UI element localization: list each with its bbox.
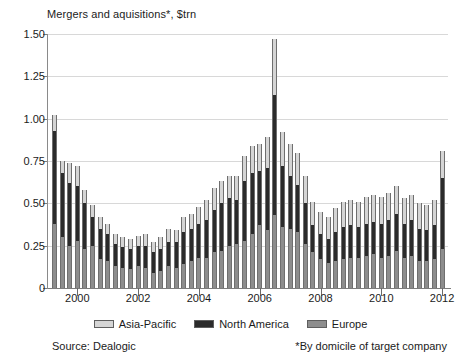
bar-segment-asia-pacific <box>220 181 223 203</box>
bar-segment-north-america <box>114 244 117 266</box>
bar-segment-asia-pacific <box>159 237 162 249</box>
bar <box>158 237 163 288</box>
bar-segment-europe <box>83 249 86 288</box>
bar-segment-europe <box>106 261 109 288</box>
y-axis-ticks: 00.250.500.751.001.251.50 <box>0 0 45 363</box>
bar-segment-europe <box>137 266 140 288</box>
bar <box>120 237 125 288</box>
bar <box>265 137 270 288</box>
bar <box>303 176 308 288</box>
bar-segment-north-america <box>319 234 322 259</box>
bar <box>364 197 369 288</box>
bar-segment-europe <box>387 256 390 288</box>
x-tick-label: 2010 <box>369 292 393 304</box>
bar-segment-europe <box>159 271 162 288</box>
bar-segment-asia-pacific <box>243 156 246 181</box>
bar-segment-asia-pacific <box>76 166 79 186</box>
bar <box>348 200 353 288</box>
bar-segment-north-america <box>137 246 140 266</box>
plot-area <box>48 34 448 288</box>
bar-segment-north-america <box>281 166 284 227</box>
bar-segment-north-america <box>387 220 390 256</box>
bar-segment-asia-pacific <box>433 200 436 225</box>
bar-segment-europe <box>53 224 56 288</box>
bar-segment-europe <box>258 225 261 288</box>
bar <box>136 236 141 288</box>
bar-segment-north-america <box>99 229 102 259</box>
bar-segment-north-america <box>175 242 178 267</box>
legend-item: North America <box>194 318 289 330</box>
bar-segment-europe <box>380 258 383 288</box>
legend-swatch <box>94 320 114 328</box>
bar-segment-asia-pacific <box>258 144 261 171</box>
bar <box>98 217 103 288</box>
bar-segment-north-america <box>190 229 193 261</box>
bar-segment-europe <box>61 237 64 288</box>
bar <box>189 214 194 289</box>
bar <box>242 156 247 288</box>
legend-label: Asia-Pacific <box>119 318 176 330</box>
bar-segment-north-america <box>441 178 444 249</box>
bar <box>234 176 239 288</box>
bar-segment-asia-pacific <box>61 161 64 173</box>
bar-segment-asia-pacific <box>273 39 276 95</box>
bar <box>295 153 300 288</box>
chart-title: Mergers and aquisitions*, $trn <box>47 8 196 20</box>
bar <box>326 217 331 288</box>
bar-segment-asia-pacific <box>129 239 132 249</box>
bar-segment-europe <box>190 261 193 288</box>
bar-segment-asia-pacific <box>266 137 269 167</box>
bar-segment-asia-pacific <box>387 193 390 220</box>
bar-segment-europe <box>99 259 102 288</box>
bar-segment-north-america <box>258 171 261 225</box>
bar-segment-europe <box>266 230 269 288</box>
bar <box>318 212 323 288</box>
bar <box>341 202 346 288</box>
bar-segment-north-america <box>182 232 185 264</box>
bar-segment-europe <box>304 244 307 288</box>
bar-segment-north-america <box>159 249 162 271</box>
bar-segment-north-america <box>304 203 307 244</box>
bar <box>181 217 186 288</box>
x-tick-label: 2006 <box>247 292 271 304</box>
bar <box>151 242 156 288</box>
bar-segment-asia-pacific <box>83 190 86 204</box>
bar-segment-europe <box>372 254 375 288</box>
bar-segment-europe <box>365 256 368 288</box>
x-tick-label: 2000 <box>65 292 89 304</box>
bar-segment-north-america <box>83 203 86 249</box>
bar <box>113 234 118 288</box>
bar-segment-asia-pacific <box>319 212 322 234</box>
bar-segment-north-america <box>311 225 314 252</box>
bar-segment-asia-pacific <box>425 205 428 230</box>
x-tick-label: 2004 <box>187 292 211 304</box>
bar-segment-north-america <box>410 220 413 256</box>
bar-segment-asia-pacific <box>197 207 200 224</box>
bar-segment-europe <box>425 261 428 288</box>
bar-segment-asia-pacific <box>410 195 413 220</box>
bar-segment-north-america <box>296 185 299 232</box>
bar-segment-north-america <box>395 214 398 251</box>
bar-segment-europe <box>357 258 360 288</box>
bar <box>90 205 95 288</box>
bar-segment-europe <box>197 258 200 288</box>
bar-segment-europe <box>228 246 231 288</box>
bar-segment-europe <box>395 251 398 288</box>
bar-segment-north-america <box>228 198 231 245</box>
bar-segment-north-america <box>129 249 132 269</box>
chart-legend: Asia-PacificNorth AmericaEurope <box>0 316 461 332</box>
bar-segment-europe <box>273 215 276 288</box>
bar-segment-europe <box>296 232 299 288</box>
source-note: Source: Dealogic <box>52 340 136 352</box>
bar-segment-asia-pacific <box>182 217 185 232</box>
bar-segment-north-america <box>61 173 64 237</box>
bar-segment-north-america <box>357 227 360 257</box>
x-tick-label: 2002 <box>126 292 150 304</box>
legend-item: Asia-Pacific <box>94 318 176 330</box>
bar-segment-europe <box>403 258 406 288</box>
bar-segment-north-america <box>213 210 216 252</box>
bar-segment-asia-pacific <box>349 200 352 225</box>
bar <box>379 197 384 288</box>
bar-segment-asia-pacific <box>106 224 109 234</box>
bar-segment-europe <box>235 244 238 288</box>
